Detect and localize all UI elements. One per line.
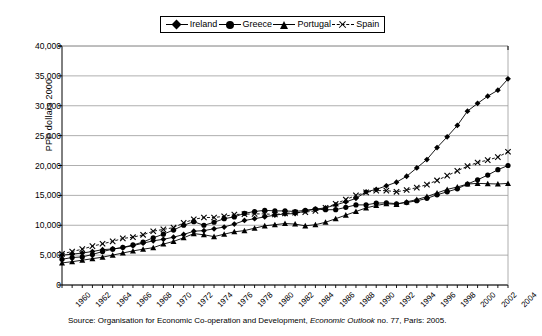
chart-figure: Ireland Greece Portugal Spain PPP dollar…: [0, 0, 542, 336]
source-note: Source: Organisation for Economic Co-ope…: [68, 316, 446, 325]
gridlines: [62, 46, 508, 285]
plot-area: [0, 0, 542, 336]
source-italic: Economic Outlook: [310, 316, 375, 325]
series-ireland: [59, 76, 511, 258]
source-suffix: no. 77, Paris: 2005.: [375, 316, 447, 325]
source-prefix: Source: Organisation for Economic Co-ope…: [68, 316, 310, 325]
